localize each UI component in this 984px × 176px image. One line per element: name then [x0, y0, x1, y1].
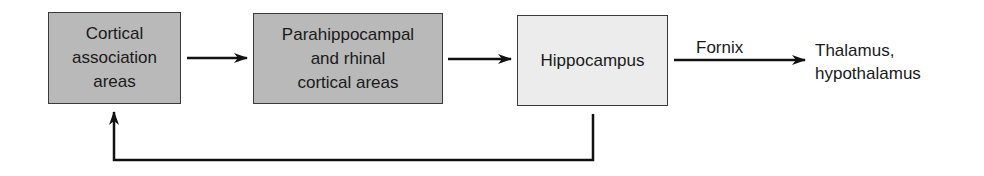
node-label: Hippocampus: [541, 49, 645, 73]
feedback-arrow-hippocampus-to-cortical: [114, 112, 593, 160]
edge-label-fornix: Fornix: [696, 36, 743, 59]
node-label: Parahippocampal and rhinal cortical area…: [282, 23, 414, 95]
node-label: Cortical association areas: [72, 22, 157, 94]
node-hippocampus: Hippocampus: [517, 15, 668, 106]
node-parahippocampal-rhinal-cortical-areas: Parahippocampal and rhinal cortical area…: [253, 13, 443, 104]
node-cortical-association-areas: Cortical association areas: [48, 12, 181, 104]
node-thalamus-hypothalamus: Thalamus, hypothalamus: [815, 39, 921, 85]
